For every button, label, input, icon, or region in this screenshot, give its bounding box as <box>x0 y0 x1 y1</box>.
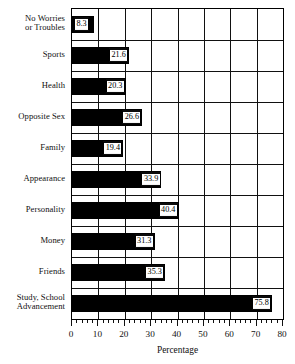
plot-area: 8.321.620.326.619.433.940.431.335.375.8 <box>71 8 284 320</box>
bar-value-label: 31.3 <box>135 235 154 247</box>
category-label: Money <box>0 236 65 246</box>
x-tick-label: 10 <box>93 329 102 340</box>
x-tick-major <box>124 320 125 326</box>
bar-row: 75.8 <box>72 295 283 312</box>
category-axis-labels: No Worriesor TroublesSportsHealthOpposit… <box>0 8 68 320</box>
x-tick-minor <box>250 320 251 323</box>
x-tick-minor <box>129 320 130 323</box>
bar-row: 8.3 <box>72 16 283 33</box>
bar-chart: No Worriesor TroublesSportsHealthOpposit… <box>0 0 295 364</box>
bar-row: 19.4 <box>72 140 283 157</box>
category-label-line: Appearance <box>0 174 65 184</box>
category-label-line: Health <box>0 81 65 91</box>
category-label-line: Money <box>0 236 65 246</box>
x-tick-minor <box>235 320 236 323</box>
x-tick-minor <box>103 320 104 323</box>
x-tick-label: 30 <box>146 329 155 340</box>
x-tick-label: 60 <box>225 329 234 340</box>
x-tick-minor <box>277 320 278 323</box>
x-tick-minor <box>182 320 183 323</box>
x-tick-minor <box>113 320 114 323</box>
x-tick-major <box>177 320 178 326</box>
category-label: Study, SchoolAdvancement <box>0 293 65 312</box>
x-axis-ticks <box>71 320 284 328</box>
x-tick-label: 20 <box>119 329 128 340</box>
x-tick-minor <box>82 320 83 323</box>
bar-row: 21.6 <box>72 47 283 64</box>
x-tick-minor <box>245 320 246 323</box>
bar-value-label: 35.3 <box>145 266 164 278</box>
category-label-line: Friends <box>0 267 65 277</box>
x-tick-major <box>229 320 230 326</box>
x-tick-minor <box>76 320 77 323</box>
bar-row: 40.4 <box>72 202 283 219</box>
category-label: Personality <box>0 205 65 215</box>
category-label-line: Personality <box>0 205 65 215</box>
x-tick-minor <box>87 320 88 323</box>
x-tick-minor <box>271 320 272 323</box>
x-axis-title: Percentage <box>71 345 284 356</box>
x-tick-minor <box>134 320 135 323</box>
x-tick-label: 40 <box>172 329 181 340</box>
category-label: Health <box>0 81 65 91</box>
x-tick-minor <box>219 320 220 323</box>
bar-row: 20.3 <box>72 78 283 95</box>
x-tick-minor <box>240 320 241 323</box>
category-label: Sports <box>0 50 65 60</box>
x-tick-label: 50 <box>198 329 207 340</box>
x-tick-minor <box>261 320 262 323</box>
x-tick-minor <box>166 320 167 323</box>
x-tick-minor <box>140 320 141 323</box>
x-tick-minor <box>213 320 214 323</box>
bar-row: 33.9 <box>72 171 283 188</box>
x-tick-major <box>150 320 151 326</box>
x-tick-major <box>97 320 98 326</box>
category-label-line: Family <box>0 143 65 153</box>
bar <box>72 295 272 312</box>
x-tick-minor <box>266 320 267 323</box>
category-label: No Worriesor Troubles <box>0 14 65 33</box>
x-tick-major <box>203 320 204 326</box>
x-tick-label: 80 <box>277 329 286 340</box>
x-tick-minor <box>187 320 188 323</box>
x-tick-minor <box>224 320 225 323</box>
bar-value-label: 21.6 <box>109 49 128 61</box>
x-tick-minor <box>92 320 93 323</box>
x-tick-major <box>71 320 72 326</box>
x-tick-minor <box>108 320 109 323</box>
x-tick-minor <box>171 320 172 323</box>
bar-row: 26.6 <box>72 109 283 126</box>
bar-value-label: 8.3 <box>74 18 89 30</box>
x-tick-minor <box>208 320 209 323</box>
x-tick-minor <box>155 320 156 323</box>
x-tick-label: 0 <box>69 329 74 340</box>
x-tick-major <box>256 320 257 326</box>
x-tick-minor <box>118 320 119 323</box>
bar-value-label: 75.8 <box>252 297 271 309</box>
category-label-line: Advancement <box>0 302 65 312</box>
bar-value-label: 26.6 <box>122 111 141 123</box>
category-label: Appearance <box>0 174 65 184</box>
x-tick-minor <box>145 320 146 323</box>
x-tick-minor <box>161 320 162 323</box>
category-label-line: or Troubles <box>0 23 65 33</box>
bar-row: 31.3 <box>72 233 283 250</box>
category-label: Friends <box>0 267 65 277</box>
bar-value-label: 33.9 <box>141 173 160 185</box>
x-tick-major <box>282 320 283 326</box>
category-label: Family <box>0 143 65 153</box>
x-tick-minor <box>198 320 199 323</box>
bar-value-label: 19.4 <box>103 142 122 154</box>
x-tick-label: 70 <box>251 329 260 340</box>
bar-value-label: 40.4 <box>159 204 178 216</box>
category-label-line: Sports <box>0 50 65 60</box>
bar-row: 35.3 <box>72 264 283 281</box>
x-tick-minor <box>192 320 193 323</box>
category-label: Opposite Sex <box>0 112 65 122</box>
bar-value-label: 20.3 <box>106 80 125 92</box>
x-axis-tick-labels: 01020304050607080 <box>71 329 284 343</box>
category-label-line: Opposite Sex <box>0 112 65 122</box>
